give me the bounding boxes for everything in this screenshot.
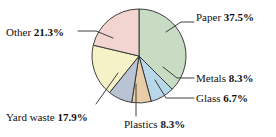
pie-label-glass-value: 6.7% bbox=[223, 92, 248, 104]
pie-label-paper-name: Paper bbox=[196, 11, 221, 23]
pie-label-paper-value: 37.5% bbox=[224, 11, 254, 23]
pie-label-metals-value: 8.3% bbox=[229, 72, 254, 84]
pie-label-paper: Paper 37.5% bbox=[196, 12, 254, 23]
pie-label-plastics-value: 8.3% bbox=[160, 118, 185, 130]
pie-label-yard-waste-name: Yard waste bbox=[6, 111, 55, 123]
pie-slices bbox=[92, 9, 186, 103]
pie-label-plastics: Plastics 8.3% bbox=[124, 119, 185, 130]
pie-label-glass: Glass 6.7% bbox=[196, 93, 248, 104]
pie-label-metals: Metals 8.3% bbox=[196, 73, 253, 84]
pie-label-other-value: 21.3% bbox=[34, 26, 64, 38]
pie-label-metals-name: Metals bbox=[196, 72, 226, 84]
pie-label-yard-waste: Yard waste 17.9% bbox=[6, 112, 88, 123]
pie-label-yard-waste-value: 17.9% bbox=[57, 111, 87, 123]
pie-label-glass-name: Glass bbox=[196, 92, 220, 104]
pie-chart-figure: Paper 37.5% Metals 8.3% Glass 6.7% Plast… bbox=[0, 0, 276, 137]
pie-label-plastics-name: Plastics bbox=[124, 118, 158, 130]
pie-label-other: Other 21.3% bbox=[6, 27, 64, 38]
pie-label-other-name: Other bbox=[6, 26, 31, 38]
